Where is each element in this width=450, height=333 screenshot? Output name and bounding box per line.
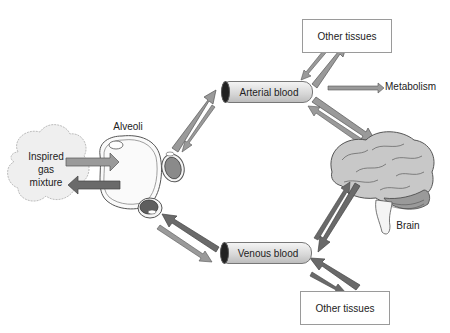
arterial-blood-label: Arterial blood: [240, 87, 299, 98]
arterial-blood-node: Arterial blood: [225, 81, 313, 103]
venous-blood-label: Venous blood: [238, 248, 299, 259]
brain-illustration: [331, 132, 434, 234]
other-tissues-top-label: Other tissues: [318, 31, 377, 42]
arrow-other-tissues-bottom-to-venous: [310, 258, 360, 290]
brain-label: Brain: [396, 220, 419, 231]
arrow-arterial-to-metabolism: [328, 83, 384, 93]
arrow-brain-to-venous: [318, 183, 360, 252]
other-tissues-bottom-label: Other tissues: [316, 303, 375, 314]
arrow-alveoli-to-arterial: [172, 90, 216, 152]
inspired-label-line2: gas: [38, 164, 54, 175]
other-tissues-bottom-node: Other tissues: [300, 291, 390, 325]
inspired-label-line3: mixture: [30, 177, 63, 188]
arrow-arterial-to-brain: [312, 97, 376, 142]
arterial-vessel-opening: [221, 81, 230, 103]
other-tissues-top-node: Other tissues: [302, 19, 392, 53]
metabolism-label: Metabolism: [385, 81, 436, 92]
venous-blood-node: Venous blood: [224, 242, 312, 264]
alveoli-label: Alveoli: [113, 121, 142, 132]
venous-vessel-opening: [220, 242, 229, 264]
inspired-label-line1: Inspired: [28, 151, 64, 162]
